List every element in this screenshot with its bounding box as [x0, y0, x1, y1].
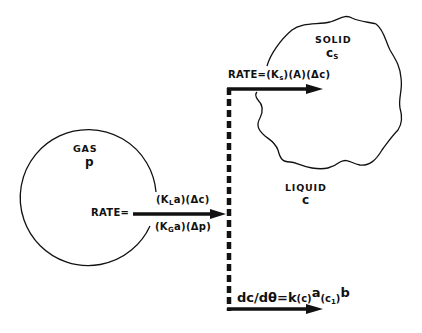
kg-subscript: G: [168, 226, 174, 234]
liquid-solid-rate: RATE=(Ks)(A)(Δc): [228, 70, 330, 80]
ks-open: RATE=(K: [228, 69, 279, 80]
ks-subscript: s: [279, 74, 283, 82]
ks-rest: )(A)(Δc): [284, 69, 331, 80]
solid-symbol-subscript: S: [333, 53, 338, 61]
solid-symbol: cS: [326, 47, 338, 59]
liquid-symbol: c: [302, 194, 309, 206]
gas-label: GAS: [73, 144, 97, 154]
reaction-rate-equation: dc/dθ=k(c)a(c1)b: [237, 291, 350, 304]
kg-rest: a)(Δp): [174, 221, 211, 232]
reaction-c1-subscript: 1: [331, 298, 336, 306]
reaction-equals: =: [277, 290, 288, 305]
gas-liquid-rate-kg: (KGa)(Δp): [155, 222, 211, 232]
gas-liquid-rate-prefix: RATE=: [91, 208, 129, 218]
reaction-exp-b: b: [340, 285, 349, 300]
reaction-exp-a: a: [312, 285, 321, 300]
kl-open: (K: [156, 194, 169, 205]
solid-label: SOLID: [315, 35, 351, 45]
gas-symbol: p: [85, 156, 94, 168]
arrowhead-icon: [306, 84, 323, 94]
arrowhead-icon: [210, 209, 226, 219]
kl-subscript: L: [169, 199, 174, 207]
kg-open: (K: [155, 221, 168, 232]
reaction-k: k: [288, 290, 297, 305]
arrowhead-icon: [306, 304, 323, 314]
reaction-c-term: (c): [297, 293, 312, 304]
reaction-lhs: dc/dθ: [237, 290, 277, 305]
mass-transfer-diagram: [0, 0, 422, 333]
gas-liquid-rate-kl: (KLa)(Δc): [156, 195, 210, 205]
kl-rest: a)(Δc): [174, 194, 210, 205]
reaction-c1-open: (c: [320, 293, 331, 304]
liquid-label: LIQUID: [285, 183, 327, 193]
